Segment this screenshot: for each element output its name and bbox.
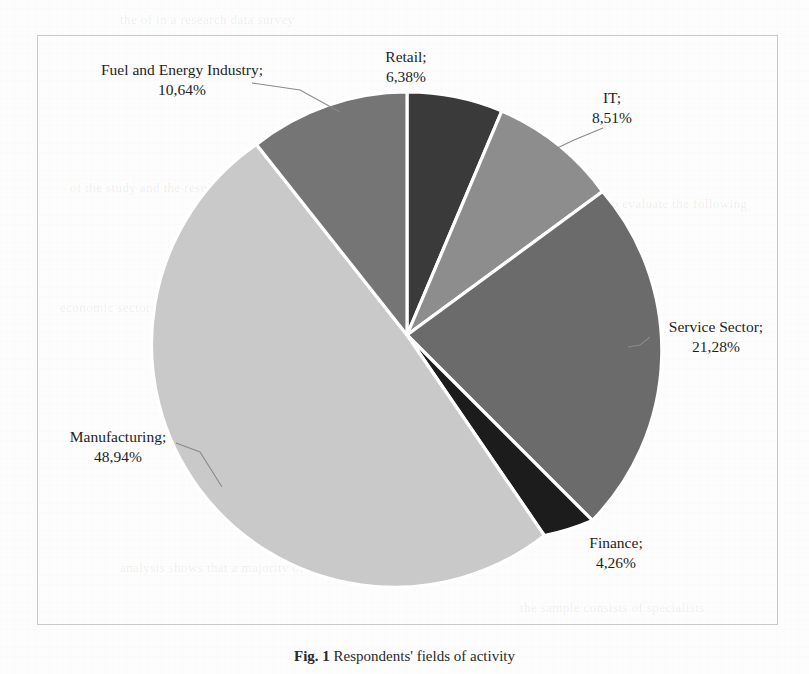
pie-label-it: IT; 8,51% — [592, 88, 632, 128]
pie-label-service-sector-name: Service Sector; — [669, 317, 763, 337]
pie-label-manufacturing: Manufacturing; 48,94% — [70, 427, 166, 467]
pie-label-finance: Finance; 4,26% — [589, 533, 642, 573]
pie-label-fuel-and-energy-industry: Fuel and Energy Industry; 10,64% — [101, 60, 263, 100]
pie-label-retail: Retail; 6,38% — [385, 47, 426, 87]
pie-label-fuel-and-energy-industry-name: Fuel and Energy Industry; — [101, 60, 263, 80]
pie-label-retail-value: 6,38% — [385, 67, 426, 87]
pie-label-service-sector-value: 21,28% — [669, 337, 763, 357]
pie-label-retail-name: Retail; — [385, 47, 426, 67]
pie-label-finance-name: Finance; — [589, 533, 642, 553]
pie-label-finance-value: 4,26% — [589, 553, 642, 573]
pie-label-service-sector: Service Sector; 21,28% — [669, 317, 763, 357]
figure-caption-text: Respondents' fields of activity — [334, 648, 515, 664]
figure-caption: Fig. 1 Respondents' fields of activity — [0, 648, 809, 674]
pie-label-fuel-and-energy-industry-value: 10,64% — [101, 80, 263, 100]
chart-plot-frame — [37, 35, 778, 625]
pie-label-it-value: 8,51% — [592, 108, 632, 128]
pie-label-manufacturing-name: Manufacturing; — [70, 427, 166, 447]
figure-caption-number: Fig. 1 — [294, 648, 330, 664]
pie-label-it-name: IT; — [592, 88, 632, 108]
pie-label-manufacturing-value: 48,94% — [70, 447, 166, 467]
bleed-text-line: the of in a research data survey — [120, 12, 295, 28]
figure-page: the of in a research data survey respond… — [0, 0, 809, 674]
